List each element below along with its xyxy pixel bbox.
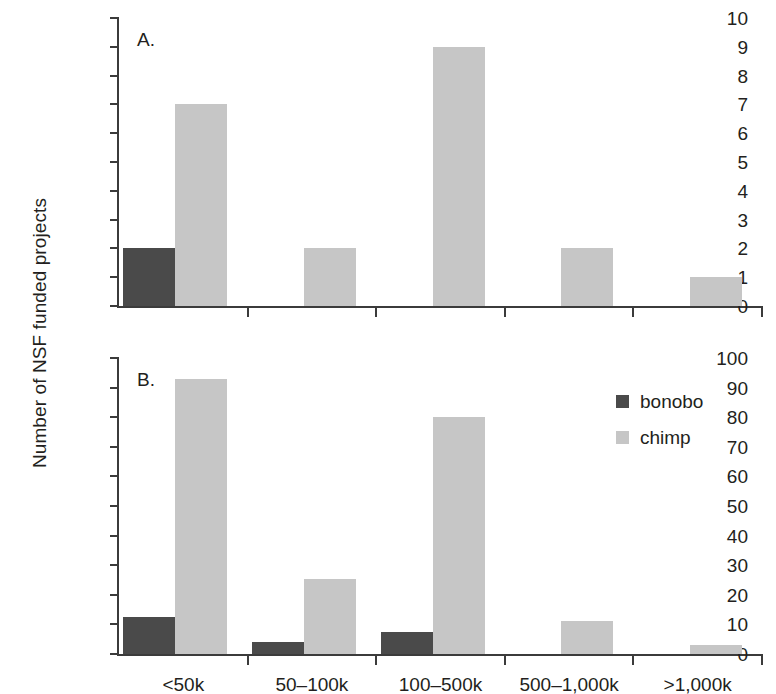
y-axis-tick (110, 247, 119, 249)
legend-label-chimp: chimp (640, 428, 691, 447)
y-axis-tick-label: 6 (737, 124, 748, 143)
y-axis-tick (110, 46, 119, 48)
y-axis-tick (110, 305, 119, 307)
y-axis-tick-label: 2 (737, 239, 748, 258)
panel-b: B. 0102030405060708090100<50k50–100k100–… (0, 330, 776, 694)
x-axis-tick (375, 306, 377, 317)
y-axis-tick-label: 9 (737, 37, 748, 56)
y-axis-line (117, 18, 119, 308)
x-axis-tick-label: <50k (162, 675, 204, 694)
y-axis-tick (110, 387, 119, 389)
y-axis-tick-label: 3 (737, 210, 748, 229)
x-axis-tick (504, 654, 506, 665)
y-axis-tick (110, 75, 119, 77)
x-axis-tick (632, 306, 634, 317)
y-axis-tick (110, 594, 119, 596)
y-axis-tick-label: 90 (727, 378, 748, 397)
y-axis-tick-label: 30 (727, 556, 748, 575)
panel-a-plot-area: 012345678910 (119, 18, 762, 306)
legend-item-bonobo: bonobo (616, 392, 703, 411)
y-axis-tick-label: 5 (737, 153, 748, 172)
y-axis-tick-label: 60 (727, 467, 748, 486)
x-axis-tick (247, 306, 249, 317)
x-axis-tick (504, 306, 506, 317)
y-axis-line (117, 358, 119, 656)
panel-a: A. 012345678910 (0, 0, 776, 330)
y-axis-tick (110, 564, 119, 566)
x-axis-line (117, 306, 762, 308)
y-axis-tick (110, 103, 119, 105)
bar-chimp->1,000k (690, 645, 742, 654)
y-axis-tick (110, 535, 119, 537)
legend-swatch-chimp-icon (616, 431, 629, 444)
bar-chimp->1,000k (690, 277, 742, 306)
x-axis-tick (632, 654, 634, 665)
bar-bonobo-<50k (123, 617, 175, 654)
y-axis-tick-label: 10 (727, 615, 748, 634)
x-axis-tick (247, 654, 249, 665)
y-axis-tick-label: 7 (737, 95, 748, 114)
y-axis-tick (110, 190, 119, 192)
y-axis-tick-label: 10 (727, 9, 748, 28)
y-axis-tick (110, 505, 119, 507)
y-axis-tick (110, 416, 119, 418)
bar-chimp-100–500k (433, 47, 485, 306)
x-axis-tick-label: 50–100k (275, 675, 348, 694)
y-axis-tick-label: 70 (727, 437, 748, 456)
bar-chimp-<50k (175, 379, 227, 654)
y-axis-tick-label: 50 (727, 497, 748, 516)
y-axis-tick (110, 132, 119, 134)
y-axis-tick (110, 653, 119, 655)
x-axis-tick-label: >1,000k (664, 675, 732, 694)
y-axis-tick-label: 8 (737, 66, 748, 85)
y-axis-tick-label: 4 (737, 181, 748, 200)
y-axis-tick (110, 446, 119, 448)
y-axis-tick-label: 100 (716, 349, 748, 368)
legend-swatch-bonobo-icon (616, 395, 629, 408)
y-axis-tick (110, 623, 119, 625)
y-axis-tick (110, 17, 119, 19)
legend-item-chimp: chimp (616, 428, 703, 447)
x-axis-tick-label: 100–500k (399, 675, 482, 694)
y-axis-tick-label: 20 (727, 585, 748, 604)
bar-bonobo-<50k (123, 248, 175, 306)
x-axis-tick (761, 306, 763, 317)
x-axis-tick-label: 500–1,000k (519, 675, 618, 694)
legend: bonobo chimp (616, 392, 703, 464)
y-axis-tick (110, 276, 119, 278)
x-axis-tick (375, 654, 377, 665)
y-axis-tick-label: 80 (727, 408, 748, 427)
bar-chimp-100–500k (433, 417, 485, 654)
figure-bar-chart-nsf-funding: Number of NSF funded projects A. 0123456… (0, 0, 776, 694)
y-axis-tick-label: 40 (727, 526, 748, 545)
bar-chimp-500–1,000k (561, 248, 613, 306)
bar-chimp-50–100k (304, 579, 356, 654)
y-axis-tick (110, 357, 119, 359)
legend-label-bonobo: bonobo (640, 392, 703, 411)
bar-chimp-<50k (175, 104, 227, 306)
bar-chimp-500–1,000k (561, 621, 613, 654)
y-axis-tick (110, 219, 119, 221)
x-axis-line (117, 654, 762, 656)
bar-bonobo-100–500k (381, 632, 433, 654)
x-axis-tick (761, 654, 763, 665)
bar-chimp-50–100k (304, 248, 356, 306)
y-axis-tick (110, 161, 119, 163)
bar-bonobo-50–100k (252, 642, 304, 654)
y-axis-tick (110, 475, 119, 477)
